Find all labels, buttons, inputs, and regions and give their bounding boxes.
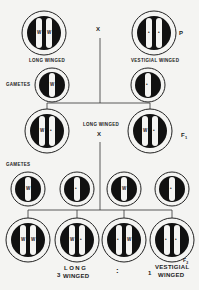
allele-label: • xyxy=(80,237,82,242)
allele-label: W xyxy=(50,82,55,87)
cross-symbol: X xyxy=(96,26,100,32)
allele-label: • xyxy=(165,237,167,242)
ratio-separator: : xyxy=(116,266,119,275)
f2-offspring-4 xyxy=(150,218,194,262)
cross-symbol: X xyxy=(97,131,101,137)
allele-label: • xyxy=(175,237,177,242)
genetics-diagram xyxy=(0,0,199,290)
phenotype-label-vestigial-winged: VESTIGIAL WINGED xyxy=(131,58,179,63)
allele-label: • xyxy=(146,82,148,87)
ratio-vestigial-count: 1 xyxy=(148,270,152,276)
allele-label: • xyxy=(148,30,150,35)
parent-cell-vestigial-winged xyxy=(132,11,176,55)
allele-label: W xyxy=(40,128,45,133)
f1-gamete-2 xyxy=(60,172,94,206)
gametes-label: GAMETES xyxy=(6,82,30,87)
f1-cell-right xyxy=(128,109,172,153)
allele-label: W xyxy=(37,30,42,35)
generation-label-f1: F1 xyxy=(181,132,188,140)
f1-gamete-4 xyxy=(155,172,189,206)
ratio-long-count: 3 xyxy=(57,272,61,278)
parent-cell-long-winged xyxy=(22,11,66,55)
f1-cell-left xyxy=(25,109,69,153)
allele-label: W xyxy=(127,237,132,242)
phenotype-label-long-winged: LONG WINGED xyxy=(29,58,65,63)
f2-offspring-1 xyxy=(6,218,50,262)
generation-label-p: P xyxy=(179,30,183,36)
ratio-vestigial-line2: WINGED xyxy=(158,272,184,278)
f2-offspring-3 xyxy=(102,218,146,262)
allele-label: • xyxy=(153,128,155,133)
gametes-label: GAMETES xyxy=(6,162,30,167)
allele-label: W xyxy=(26,186,31,191)
allele-label: • xyxy=(50,128,52,133)
allele-label: • xyxy=(158,30,160,35)
f1-phenotype-label: LONG WINGED xyxy=(83,122,119,127)
allele-label: W xyxy=(122,186,127,191)
ratio-long-line1: LONG xyxy=(64,265,87,271)
f2-offspring-2 xyxy=(55,218,99,262)
ratio-vestigial-line1: VESTIGIAL xyxy=(155,264,189,270)
allele-label: W xyxy=(70,237,75,242)
allele-label: • xyxy=(170,186,172,191)
allele-label: W xyxy=(31,237,36,242)
ratio-long-line2: WINGED xyxy=(63,273,89,279)
allele-label: • xyxy=(117,237,119,242)
allele-label: W xyxy=(47,30,52,35)
allele-label: • xyxy=(75,186,77,191)
parent-gamete-v xyxy=(131,68,165,102)
allele-label: W xyxy=(21,237,26,242)
allele-label: W xyxy=(143,128,148,133)
